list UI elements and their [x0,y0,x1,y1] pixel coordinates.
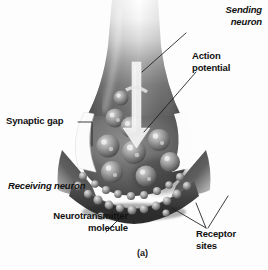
label-action-potential: Action potential [192,50,264,73]
label-receiving-neuron: Receiving neuron [8,180,85,192]
label-sending-neuron: Sending neuron [226,4,262,27]
label-neurotransmitter-molecule: Neurotransmitter molecule [4,210,128,233]
figure-caption: (a) [137,248,148,258]
synapse-figure: Sending neuron Action potential Synaptic… [0,0,268,270]
label-synaptic-gap: Synaptic gap [6,115,63,127]
label-receptor-sites: Receptor sites [196,228,236,251]
